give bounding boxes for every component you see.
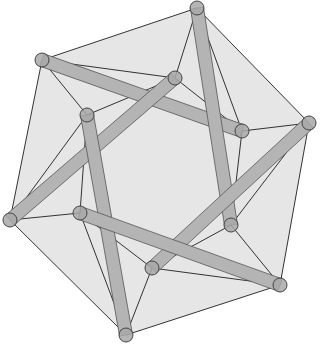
node-H — [80, 108, 94, 122]
node-E — [119, 328, 133, 342]
node-F — [3, 213, 17, 227]
node-L — [73, 206, 87, 220]
node-J — [224, 218, 238, 232]
node-K — [145, 261, 159, 275]
node-G — [168, 71, 182, 85]
node-B — [190, 1, 204, 15]
node-C — [302, 116, 316, 130]
tensegrity-diagram — [0, 0, 322, 346]
node-A — [35, 53, 49, 67]
node-I — [235, 124, 249, 138]
diagram-canvas: Tensegrity icosahedron — [0, 0, 322, 346]
node-D — [273, 278, 287, 292]
